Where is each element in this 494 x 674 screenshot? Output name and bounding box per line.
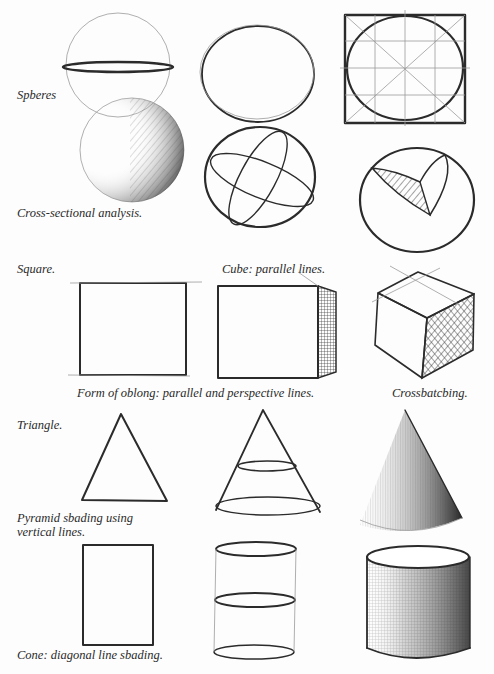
sphere-cross-sections-sketch <box>204 124 319 233</box>
label-cross-section: Cross-sectional analysis. <box>17 206 142 220</box>
cone-ellipses-sketch <box>216 410 320 515</box>
label-crosshatching: Crossbatcbing. <box>392 386 468 400</box>
label-cone: Cone: diagonal line sbading. <box>17 648 163 662</box>
label-square: Square. <box>17 262 55 276</box>
cylinder-shaded-sketch <box>367 546 471 670</box>
label-triangle: Triangle. <box>17 418 63 432</box>
triangle-sketch <box>82 414 167 501</box>
label-pyramid-line1: Pyramid sbading using <box>17 511 133 525</box>
circle-in-square-sketch <box>340 10 470 126</box>
cone-shaded-sketch <box>355 405 465 545</box>
shaded-sphere-sketch <box>80 98 184 202</box>
pencil-sketches <box>0 0 494 674</box>
cube-crosshatch-sketch <box>372 266 474 378</box>
label-pyramid-line2: vertical lines. <box>17 525 85 539</box>
label-cube: Cube: parallel lines. <box>222 262 325 276</box>
sphere-cutaway-sketch <box>360 148 474 252</box>
sketch-page: Spberes Cross-sectional analysis. Square… <box>0 0 494 674</box>
cube-parallel-sketch <box>218 272 336 378</box>
label-spheres: Spberes <box>17 88 56 102</box>
label-oblong: Form of oblong: parallel and perspective… <box>77 386 314 400</box>
square-sketch <box>68 282 202 376</box>
circle-outline-sketch <box>200 25 314 122</box>
cylinder-ellipses-sketch <box>214 542 296 659</box>
rectangle-sketch <box>83 545 153 645</box>
